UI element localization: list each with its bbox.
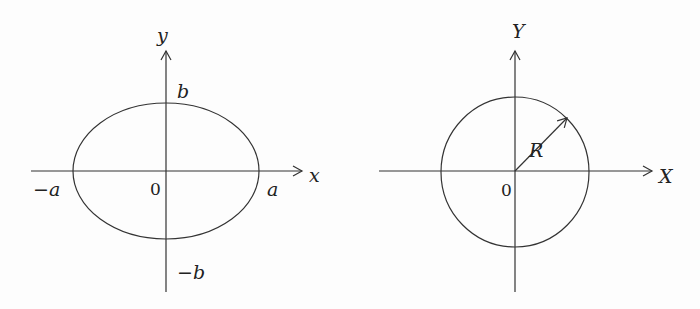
x-axis-label: X <box>657 165 674 187</box>
diagram-svg: x y 0 a −a b −b X Y 0 R <box>0 0 700 309</box>
x-axis-label: x <box>309 164 320 186</box>
ellipse-figure: x y 0 a −a b −b <box>31 24 320 292</box>
origin-label: 0 <box>501 180 512 200</box>
pos-y-intercept-label: b <box>177 80 189 102</box>
y-axis-label: Y <box>512 20 527 42</box>
diagram-canvas: x y 0 a −a b −b X Y 0 R <box>0 0 700 309</box>
radius-label: R <box>528 139 543 161</box>
pos-x-intercept-label: a <box>267 178 278 200</box>
circle-figure: X Y 0 R <box>379 20 674 292</box>
origin-label: 0 <box>150 179 161 199</box>
neg-y-intercept-label: −b <box>177 261 205 283</box>
y-axis-label: y <box>156 24 168 46</box>
neg-x-intercept-label: −a <box>33 178 60 200</box>
